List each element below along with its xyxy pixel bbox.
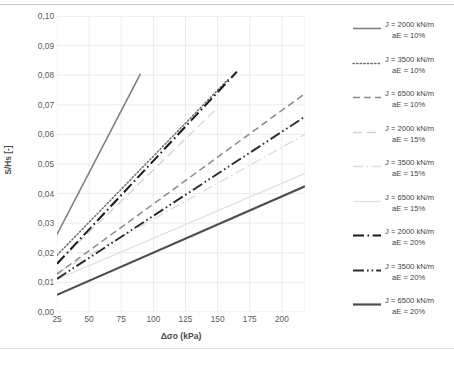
series-line [57,94,305,275]
legend-item[interactable]: J = 6500 kN/maE = 20% [352,296,452,326]
legend-label-stiffness: J = 6500 kN/m [385,88,453,99]
x-axis-title: Δσo (kPa) [57,331,305,341]
legend-item[interactable]: J = 3500 kN/maE = 10% [352,55,452,85]
legend-label-stiffness: J = 2000 kN/m [385,123,453,134]
y-tick-label: 0,09 [20,42,54,50]
legend-label-stiffness: J = 2000 kN/m [385,19,453,30]
series-line [57,173,305,279]
legend-key-line [352,197,382,206]
legend-key-line [352,300,382,309]
y-tick-label: 0,10 [20,12,54,20]
series-line [57,80,228,256]
y-tick-label: 0,07 [20,101,54,109]
legend-key-line [352,128,382,137]
legend-key-line [352,93,382,102]
y-tick-label: 0,04 [20,190,54,198]
top-divider [0,4,454,5]
legend-label-strain: aE = 10% [385,30,453,41]
legend-label-strain: aE = 15% [385,168,453,179]
legend-label-stiffness: J = 3500 kN/m [385,54,453,65]
plot-area [57,16,305,312]
y-tick-label: 0,05 [20,160,54,168]
y-tick-label: 0,08 [20,71,54,79]
legend-label-strain: aE = 20% [385,272,453,283]
x-axis-tick-labels: 255075100125150175200 [57,315,305,329]
legend-label: J = 6500 kN/maE = 10% [385,88,453,110]
legend-item[interactable]: J = 3500 kN/maE = 15% [352,158,452,188]
y-tick-label: 0,06 [20,130,54,138]
legend-key-line [352,24,382,33]
y-axis-title: S/Hs [-] [3,130,13,190]
legend-item[interactable]: J = 6500 kN/maE = 15% [352,193,452,223]
series-line [57,72,237,264]
legend-label-strain: aE = 15% [385,134,453,145]
legend-key-line [352,231,382,240]
legend-label: J = 2000 kN/maE = 15% [385,123,453,145]
legend-key-line [352,266,382,275]
legend-item[interactable]: J = 2000 kN/maE = 20% [352,227,452,257]
legend-label-strain: aE = 10% [385,99,453,110]
legend-label-strain: aE = 15% [385,203,453,214]
legend-key-line [352,59,382,68]
legend-item[interactable]: J = 2000 kN/maE = 10% [352,20,452,50]
chart-figure: 0,000,010,020,030,040,050,060,070,080,09… [0,0,454,368]
series-line [57,74,141,235]
legend-item[interactable]: J = 3500 kN/maE = 20% [352,262,452,292]
legend-label-stiffness: J = 6500 kN/m [385,192,453,203]
legend-label: J = 3500 kN/maE = 10% [385,54,453,76]
legend-label-strain: aE = 20% [385,306,453,317]
legend-label-strain: aE = 20% [385,237,453,248]
plot-canvas [57,16,305,312]
legend-label-stiffness: J = 6500 kN/m [385,295,453,306]
y-tick-label: 0,02 [20,249,54,257]
legend-label-strain: aE = 10% [385,65,453,76]
series-line [57,186,305,295]
y-tick-label: 0,03 [20,219,54,227]
legend-key-line [352,162,382,171]
legend-item[interactable]: J = 2000 kN/maE = 15% [352,124,452,154]
legend-label: J = 2000 kN/maE = 10% [385,19,453,41]
legend-label: J = 3500 kN/maE = 15% [385,157,453,179]
x-tick-label: 200 [262,315,302,323]
series-line [57,117,305,279]
y-axis-tick-labels: 0,000,010,020,030,040,050,060,070,080,09… [12,16,54,312]
legend-label-stiffness: J = 3500 kN/m [385,261,453,272]
chart-legend: J = 2000 kN/maE = 10%J = 3500 kN/maE = 1… [352,20,452,332]
legend-label: J = 3500 kN/maE = 20% [385,261,453,283]
legend-label-stiffness: J = 3500 kN/m [385,157,453,168]
legend-label: J = 2000 kN/maE = 20% [385,226,453,248]
legend-label-stiffness: J = 2000 kN/m [385,226,453,237]
y-tick-label: 0,01 [20,278,54,286]
bottom-divider [0,348,454,349]
legend-label: J = 6500 kN/maE = 15% [385,192,453,214]
series-line [57,108,218,263]
legend-item[interactable]: J = 6500 kN/maE = 10% [352,89,452,119]
legend-label: J = 6500 kN/maE = 20% [385,295,453,317]
